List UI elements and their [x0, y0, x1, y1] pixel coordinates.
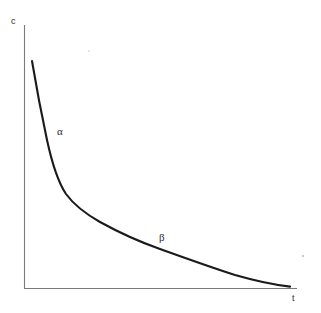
- y-axis-label: c: [11, 17, 16, 26]
- scan-artifact-speck: [302, 255, 304, 257]
- alpha-phase-label: α: [57, 126, 63, 137]
- x-axis-label: t: [292, 294, 295, 303]
- concentration-decay-curve: [32, 61, 290, 287]
- plot-canvas: [0, 0, 321, 313]
- beta-phase-label: β: [159, 232, 165, 243]
- concentration-time-figure: c t α β: [0, 0, 321, 313]
- scan-artifact-speck: [88, 50, 90, 52]
